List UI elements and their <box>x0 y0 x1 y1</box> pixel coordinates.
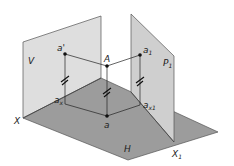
label-a: a <box>104 120 110 130</box>
projection-diagram: V H P1 X X1 A a' a a1 ax ax1 <box>0 0 234 166</box>
point-A <box>105 64 109 68</box>
point-a <box>105 114 109 118</box>
label-axis-x1: X1 <box>171 149 182 160</box>
label-a-prime: a' <box>57 43 65 53</box>
label-A: A <box>103 54 110 64</box>
point-a1 <box>138 53 142 57</box>
label-plane-v: V <box>28 56 35 66</box>
label-axis-x: X <box>13 116 21 126</box>
diagram-canvas: V H P1 X X1 A a' a a1 ax ax1 <box>0 0 234 166</box>
label-plane-h: H <box>124 144 131 154</box>
